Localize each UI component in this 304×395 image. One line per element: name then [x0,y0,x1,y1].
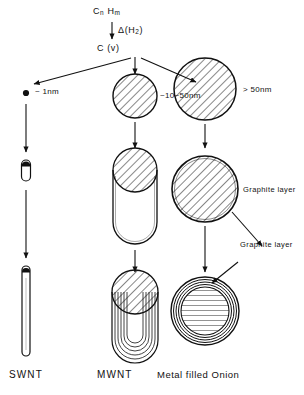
figure-canvas: Cn Hm Δ(H2) C (v) ~ 1nm ~10~50nm > 50nm … [0,0,304,395]
reaction-condition: Δ(H2) [118,25,143,35]
bottom-label-swnt: SWNT [9,369,43,380]
bottom-label-onion: Metal filled Onion [157,369,239,380]
left-stage-dot [23,90,29,96]
carbon-vapor-label: C (v) [97,43,120,53]
annotation-graphite-lower: Graphite layer [240,240,293,249]
right-stage-onion [171,277,239,345]
leader-graphite-lower [212,262,238,283]
size-label-left: ~ 1nm [35,87,59,96]
annotation-graphite-upper: Graphite layer [243,185,296,194]
arrow-cv-to-left [34,58,131,84]
bottom-label-mwnt: MWNT [97,369,133,380]
middle-stage-mwnt [112,270,158,363]
right-stage-large-circle [174,58,236,120]
left-stage-small-capsule [22,160,31,181]
right-branch-shapes [171,58,262,345]
right-stage-shelled-circle [172,156,238,222]
left-branch-shapes [22,90,31,356]
middle-branch-shapes [112,74,158,363]
middle-stage-capped-capsule [113,148,157,244]
nanostructure-flow-diagram [0,0,304,395]
size-label-middle: ~10~50nm [160,91,201,100]
size-label-right: > 50nm [243,85,272,94]
left-stage-swnt-tube [22,266,30,356]
middle-stage-hatched-circle [113,74,157,118]
precursor-formula: Cn Hm [93,6,121,16]
